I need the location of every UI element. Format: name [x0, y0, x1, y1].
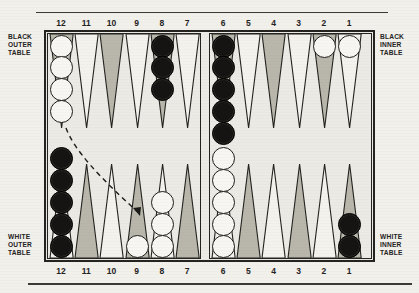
point-bottom-5 [236, 164, 261, 258]
checker-black-bottom-point-1[interactable] [338, 213, 361, 236]
checker-white-bottom-point-6[interactable] [212, 235, 235, 258]
checker-white-bottom-point-6[interactable] [212, 191, 235, 214]
checker-white-bottom-point-9[interactable] [126, 235, 149, 258]
checker-black-bottom-point-12[interactable] [50, 169, 73, 192]
caption-white-inner-table: WHITE INNER TABLE [380, 233, 416, 258]
point-top-3 [287, 34, 312, 128]
checker-white-top-point-1[interactable] [338, 35, 361, 58]
point-bottom-4 [261, 164, 286, 258]
points-and-checkers-layer [0, 0, 419, 293]
checker-black-bottom-point-12[interactable] [50, 191, 73, 214]
point-bottom-2 [312, 164, 337, 258]
caption-white-outer-table: WHITE OUTER TABLE [8, 233, 42, 258]
point-bottom-3 [287, 164, 312, 258]
checker-white-bottom-point-8[interactable] [151, 213, 174, 236]
point-bottom-11 [74, 164, 99, 258]
checker-white-bottom-point-8[interactable] [151, 191, 174, 214]
checker-white-top-point-2[interactable] [313, 35, 336, 58]
diagram-sheet: 121110987654321 121110987654321 BLACK OU… [0, 0, 419, 293]
checker-white-top-point-12[interactable] [50, 35, 73, 58]
checker-white-bottom-point-8[interactable] [151, 235, 174, 258]
checker-black-top-point-6[interactable] [212, 122, 235, 145]
caption-black-outer-table: BLACK OUTER TABLE [8, 33, 42, 58]
checker-black-bottom-point-12[interactable] [50, 213, 73, 236]
caption-black-inner-table: BLACK INNER TABLE [380, 33, 416, 58]
checker-black-bottom-point-12[interactable] [50, 235, 73, 258]
checker-white-bottom-point-6[interactable] [212, 169, 235, 192]
point-top-4 [261, 34, 286, 128]
point-top-9 [125, 34, 150, 128]
checker-black-bottom-point-1[interactable] [338, 235, 361, 258]
checker-black-top-point-8[interactable] [151, 35, 174, 58]
point-top-11 [74, 34, 99, 128]
point-top-7 [175, 34, 200, 128]
checker-white-bottom-point-6[interactable] [212, 213, 235, 236]
point-top-10 [99, 34, 124, 128]
checker-black-top-point-6[interactable] [212, 35, 235, 58]
point-bottom-7 [175, 164, 200, 258]
point-top-5 [236, 34, 261, 128]
point-bottom-10 [99, 164, 124, 258]
